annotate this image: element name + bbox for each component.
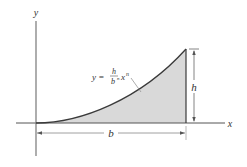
- svg-text:n: n: [126, 71, 129, 77]
- shaded-region: [36, 49, 186, 123]
- svg-text:h: h: [112, 67, 116, 76]
- equation-leader: [131, 78, 141, 92]
- area-under-curve-diagram: h b y x y = h b n x n: [0, 0, 247, 167]
- x-axis-label: x: [227, 118, 233, 129]
- svg-text:y =: y =: [91, 72, 104, 82]
- svg-text:b: b: [111, 77, 115, 86]
- svg-text:x: x: [120, 72, 125, 82]
- svg-text:n: n: [117, 76, 120, 81]
- height-label: h: [191, 81, 197, 93]
- y-axis-label: y: [33, 7, 39, 18]
- curve-equation: y = h b n x n: [91, 67, 129, 86]
- width-label: b: [108, 127, 114, 139]
